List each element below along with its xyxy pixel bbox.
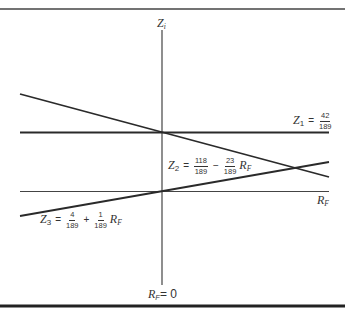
- z3-equals: =: [55, 215, 61, 225]
- z2-coefficient-fraction: 23189: [224, 157, 237, 175]
- z2-equation: Z2 = 118189 − 23189 RF: [168, 157, 251, 175]
- z3-const-numerator: 4: [69, 211, 75, 221]
- z3-name-sub: 3: [47, 218, 51, 227]
- z1-name-sub: 1: [300, 119, 304, 128]
- z3-variable: RF: [110, 213, 122, 227]
- z3-coefficient-fraction: 1189: [94, 211, 107, 229]
- z1-const-denominator: 189: [319, 122, 332, 131]
- horizontal-axis-label-sub: F: [324, 199, 329, 208]
- z1-constant-fraction: 42189: [319, 112, 332, 130]
- z2-constant-fraction: 118189: [194, 157, 208, 175]
- origin-label-eq: = 0: [160, 287, 177, 301]
- z2-coef-denominator: 189: [224, 167, 237, 176]
- z3-operator: +: [84, 215, 90, 225]
- z2-variable-main: R: [239, 158, 246, 172]
- z3-name: Z3: [40, 213, 51, 227]
- z3-equation: Z3 = 4189 + 1189 RF: [40, 211, 122, 229]
- z1-const-numerator: 42: [320, 112, 330, 122]
- z1-equation: Z1 = 42189: [293, 112, 333, 130]
- z3-variable-sub: F: [117, 218, 122, 227]
- z2-variable: RF: [239, 159, 251, 173]
- z2-name-main: Z: [168, 158, 175, 172]
- vertical-axis-label-sub: i: [164, 22, 166, 31]
- z2-coef-numerator: 23: [225, 157, 235, 167]
- z3-name-main: Z: [40, 212, 47, 226]
- vertical-axis-label-main: Z: [157, 16, 164, 30]
- horizontal-axis-label: RF: [317, 194, 329, 208]
- z3-const-denominator: 189: [66, 221, 79, 230]
- origin-label: RF= 0: [148, 288, 177, 302]
- z3-coef-numerator: 1: [98, 211, 104, 221]
- vertical-axis-label: Zi: [157, 17, 166, 31]
- z2-operator: −: [213, 161, 219, 171]
- z2-name-sub: 2: [175, 164, 179, 173]
- z2-equals: =: [183, 161, 189, 171]
- z3-constant-fraction: 4189: [66, 211, 79, 229]
- z2-const-numerator: 118: [194, 157, 208, 167]
- z2-name: Z2: [168, 159, 179, 173]
- z1-name-main: Z: [293, 113, 300, 127]
- z2-const-denominator: 189: [195, 167, 208, 176]
- z1-equals: =: [308, 116, 314, 126]
- z3-coef-denominator: 189: [94, 221, 107, 230]
- z2-variable-sub: F: [247, 164, 252, 173]
- z1-name: Z1: [293, 114, 304, 128]
